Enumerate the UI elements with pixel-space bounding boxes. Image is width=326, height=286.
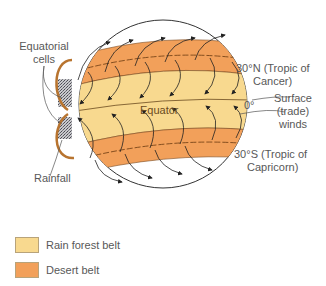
- label-equator: Equator: [140, 104, 179, 117]
- label-line: Surface: [268, 92, 318, 105]
- label-line: winds: [268, 118, 318, 131]
- label-line: Capricorn): [234, 161, 307, 174]
- label-surface-winds: Surface (trade) winds: [268, 92, 318, 131]
- label-line: (trade): [268, 105, 318, 118]
- desert-swatch: [15, 262, 39, 278]
- label-line: Cancer): [236, 75, 310, 88]
- rain-cell-lower: [58, 117, 72, 139]
- legend-label: Rain forest belt: [46, 239, 120, 251]
- legend-item-rainforest: Rain forest belt: [15, 237, 120, 253]
- label-equatorial-cells: Equatorial cells: [16, 40, 72, 66]
- label-line: 30°S (Tropic of: [234, 148, 307, 161]
- label-line: 30°N (Tropic of: [236, 62, 310, 75]
- legend-label: Desert belt: [46, 264, 99, 276]
- label-tropic-cancer: 30°N (Tropic of Cancer): [236, 62, 310, 88]
- label-zero-degree: 0°: [244, 99, 255, 112]
- rainforest-swatch: [15, 237, 39, 253]
- label-rainfall: Rainfall: [34, 172, 71, 185]
- label-tropic-capricorn: 30°S (Tropic of Capricorn): [234, 148, 307, 174]
- label-line: Equatorial: [16, 40, 72, 53]
- label-line: cells: [16, 53, 72, 66]
- legend-item-desert: Desert belt: [15, 262, 99, 278]
